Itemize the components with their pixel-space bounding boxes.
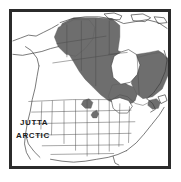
north-america-range-map <box>12 12 168 166</box>
map-frame-border <box>9 9 171 169</box>
range-map-figure: JUTTA ARCTIC <box>0 0 181 182</box>
